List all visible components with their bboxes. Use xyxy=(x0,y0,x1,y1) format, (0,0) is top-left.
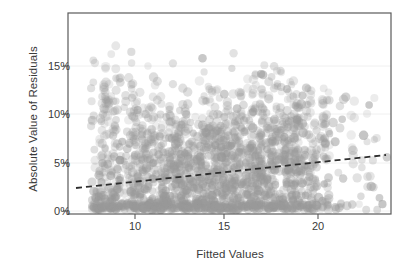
plot-canvas xyxy=(0,0,406,276)
x-tick-label-2: 20 xyxy=(298,220,338,232)
y-tick-label-1: 5% xyxy=(10,157,70,169)
x-tick-label-1: 15 xyxy=(204,220,244,232)
y-tick-label-3: 15% xyxy=(10,60,70,72)
scatter-plot-figure: Absolute Value of Residuals Fitted Value… xyxy=(0,0,406,276)
y-axis-ticks xyxy=(63,66,68,211)
y-tick-label-0: 0% xyxy=(10,205,70,217)
x-axis-title: Fitted Values xyxy=(68,248,392,260)
x-axis-ticks xyxy=(135,214,318,219)
x-tick-label-0: 10 xyxy=(115,220,155,232)
y-tick-label-2: 10% xyxy=(10,108,70,120)
